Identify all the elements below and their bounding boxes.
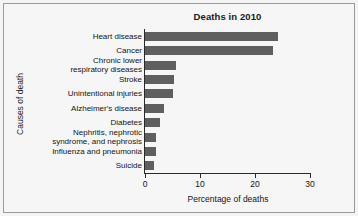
category-label-line: Nephritis, nephrotic <box>12 128 142 137</box>
x-axis-line <box>144 173 311 174</box>
x-tick-label: 20 <box>243 179 267 189</box>
category-label-line: Heart disease <box>12 32 142 41</box>
x-tick-label: 30 <box>298 179 322 189</box>
category-label-line: Suicide <box>12 161 142 170</box>
bar-row: Cancer <box>145 46 310 55</box>
category-label-line: syndrome, and nephrosis <box>12 137 142 146</box>
category-label-line: Unintentional injuries <box>12 89 142 98</box>
bar <box>145 161 154 170</box>
category-label-line: Cancer <box>12 46 142 55</box>
x-tick-label: 10 <box>188 179 212 189</box>
bar <box>145 118 160 127</box>
category-label-line: Diabetes <box>12 118 142 127</box>
bar-row: Stroke <box>145 75 310 84</box>
x-axis-title: Percentage of deaths <box>145 194 311 204</box>
bar <box>145 89 173 98</box>
category-label: Alzheimer's disease <box>12 104 142 113</box>
chart-title: Deaths in 2010 <box>145 11 310 22</box>
bar <box>145 32 278 41</box>
bar-row: Unintentional injuries <box>145 89 310 98</box>
x-tick-label: 0 <box>133 179 157 189</box>
x-tick-mark <box>145 174 146 178</box>
category-label: Nephritis, nephroticsyndrome, and nephro… <box>12 128 142 146</box>
category-label: Chronic lowerrespiratory diseases <box>12 56 142 74</box>
category-label-line: Chronic lower <box>12 56 142 65</box>
bar-row: Nephritis, nephroticsyndrome, and nephro… <box>145 133 310 142</box>
bar-row: Suicide <box>145 161 310 170</box>
bar <box>145 133 156 142</box>
chart-frame: Deaths in 2010 Causes of death Heart dis… <box>3 3 355 213</box>
x-tick-mark <box>200 174 201 178</box>
x-tick-mark <box>310 174 311 178</box>
x-tick-mark <box>255 174 256 178</box>
bar-row: Heart disease <box>145 32 310 41</box>
category-label: Cancer <box>12 46 142 55</box>
bar <box>145 75 174 84</box>
category-label: Unintentional injuries <box>12 89 142 98</box>
bar-row: Chronic lowerrespiratory diseases <box>145 61 310 70</box>
category-label: Heart disease <box>12 32 142 41</box>
bar <box>145 46 273 55</box>
chart-figure: Deaths in 2010 Causes of death Heart dis… <box>0 0 358 216</box>
category-label-line: respiratory diseases <box>12 65 142 74</box>
bar-row: Influenza and pneumonia <box>145 147 310 156</box>
category-label: Stroke <box>12 75 142 84</box>
plot-area: Heart diseaseCancerChronic lowerrespirat… <box>145 29 310 173</box>
category-label-line: Influenza and pneumonia <box>12 147 142 156</box>
bar <box>145 104 164 113</box>
bar <box>145 61 176 70</box>
category-label: Influenza and pneumonia <box>12 147 142 156</box>
category-label: Diabetes <box>12 118 142 127</box>
bar <box>145 147 156 156</box>
category-label-line: Stroke <box>12 75 142 84</box>
bar-row: Diabetes <box>145 118 310 127</box>
y-axis-line <box>144 29 145 174</box>
category-label: Suicide <box>12 161 142 170</box>
bar-row: Alzheimer's disease <box>145 104 310 113</box>
category-label-line: Alzheimer's disease <box>12 104 142 113</box>
